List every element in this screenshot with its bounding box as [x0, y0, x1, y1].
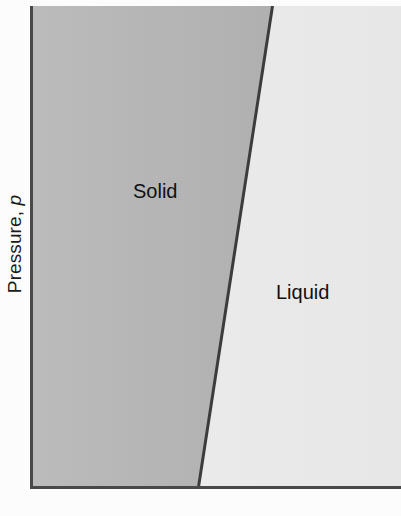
solid-region-label: Solid: [133, 180, 177, 203]
phase-regions-svg: [32, 6, 401, 487]
y-axis-line: [30, 6, 33, 489]
x-axis-line: [30, 486, 401, 489]
plot-area: [32, 6, 401, 487]
liquid-region-label: Liquid: [276, 281, 329, 304]
y-axis-label-container: Pressure, p: [0, 0, 30, 487]
y-axis-label: Pressure, p: [4, 194, 26, 292]
phase-diagram-figure: Pressure, p: [0, 0, 401, 516]
y-axis-label-text: Pressure,: [4, 205, 25, 293]
y-axis-label-symbol: p: [4, 194, 25, 205]
